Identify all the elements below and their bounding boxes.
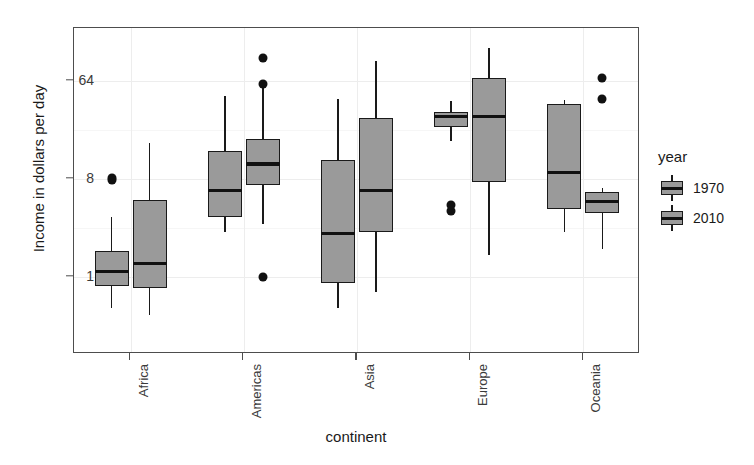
box-rect — [208, 151, 242, 217]
legend-key-icon — [658, 174, 686, 202]
gridline-horizontal — [74, 81, 638, 82]
whisker-lower — [224, 217, 226, 232]
y-axis-tick-label: 8 — [86, 170, 94, 186]
x-axis-tick-mark — [355, 353, 356, 360]
outlier-point — [258, 53, 267, 62]
whisker-lower — [337, 283, 339, 308]
x-axis-tick-label: Africa — [136, 364, 151, 397]
median-line — [359, 189, 393, 192]
whisker-upper — [224, 96, 226, 151]
boxplot-chart: Income in dollars per day continent 1864… — [0, 0, 754, 465]
x-axis-tick-label: Asia — [362, 364, 377, 389]
y-axis-tick-mark — [66, 79, 73, 80]
y-axis-tick-mark — [66, 275, 73, 276]
gridline-vertical — [583, 28, 584, 352]
whisker-lower — [564, 209, 566, 232]
y-axis-title: Income in dollars per day — [30, 39, 47, 299]
median-line — [95, 270, 129, 273]
median-line — [208, 189, 242, 192]
whisker-lower — [602, 213, 604, 249]
median-line — [547, 171, 581, 174]
whisker-upper — [375, 61, 377, 118]
legend-item-label: 1970 — [693, 180, 724, 196]
x-axis-tick-label: Europe — [475, 364, 490, 406]
x-axis-tick-mark — [129, 353, 130, 360]
whisker-upper — [111, 217, 113, 251]
legend-key-icon — [658, 204, 686, 232]
legend: year 19702010 — [658, 148, 750, 233]
whisker-lower — [375, 232, 377, 293]
y-axis-tick-mark — [66, 177, 73, 178]
median-line — [472, 115, 506, 118]
gridline-vertical — [244, 28, 245, 352]
x-axis-tick-mark — [469, 353, 470, 360]
whisker-upper — [262, 88, 264, 139]
y-axis-tick-label: 64 — [78, 72, 94, 88]
gridline-vertical — [357, 28, 358, 352]
outlier-point — [447, 201, 456, 210]
x-axis-tick-mark — [582, 353, 583, 360]
legend-title: year — [658, 148, 750, 165]
box-rect — [547, 104, 581, 209]
outlier-point — [598, 94, 607, 103]
box-rect — [359, 118, 393, 232]
median-line — [585, 200, 619, 203]
whisker-lower — [450, 127, 452, 141]
legend-item-2010[interactable]: 2010 — [658, 203, 750, 233]
legend-item-label: 2010 — [693, 210, 724, 226]
box-rect — [472, 78, 506, 182]
whisker-lower — [149, 288, 151, 315]
gridline-vertical — [131, 28, 132, 352]
median-line — [246, 162, 280, 165]
whisker-upper — [149, 143, 151, 200]
whisker-upper — [450, 101, 452, 112]
outlier-point — [258, 80, 267, 89]
whisker-lower — [262, 185, 264, 223]
gridline-vertical — [470, 28, 471, 352]
plot-panel — [73, 27, 639, 353]
box-rect — [133, 200, 167, 287]
median-line — [434, 115, 468, 118]
whisker-upper — [488, 48, 490, 79]
x-axis-tick-label: Oceania — [588, 364, 603, 412]
median-line — [321, 232, 355, 235]
x-axis-tick-label: Americas — [249, 364, 264, 418]
median-line — [133, 262, 167, 265]
whisker-lower — [111, 286, 113, 307]
outlier-point — [107, 174, 116, 183]
whisker-upper — [337, 99, 339, 160]
y-axis-tick-label: 1 — [86, 268, 94, 284]
x-axis-tick-mark — [242, 353, 243, 360]
whisker-lower — [488, 182, 490, 255]
legend-item-1970[interactable]: 1970 — [658, 173, 750, 203]
box-rect — [95, 251, 129, 287]
x-axis-title: continent — [73, 428, 639, 445]
legend-items: 19702010 — [658, 173, 750, 233]
outlier-point — [598, 74, 607, 83]
outlier-point — [258, 273, 267, 282]
box-rect — [321, 160, 355, 283]
